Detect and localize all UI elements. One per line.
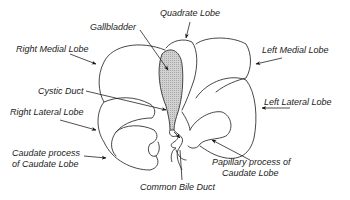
right-medial-lobe-arrow: [70, 54, 96, 64]
left-medial-lobe-arrow: [256, 58, 282, 64]
quadrate-lobe-arrow: [186, 22, 190, 38]
left-lateral-lobe-outline: [196, 78, 256, 159]
right-lateral-lobe-arrow: [60, 120, 96, 130]
caudate-process-outline: [116, 126, 159, 157]
label-papillary-process-line1: Papillary process of: [212, 157, 291, 167]
label-caudate-process-line1: Caudate process: [12, 148, 80, 158]
label-gallbladder: Gallbladder: [90, 22, 136, 32]
common-bile-duct-leader: [180, 150, 182, 180]
liver-diagram: Gallbladder Quadrate Lobe Right Medial L…: [0, 0, 350, 200]
label-right-medial-lobe: Right Medial Lobe: [16, 44, 89, 54]
label-quadrate-lobe: Quadrate Lobe: [160, 8, 220, 18]
right-lateral-lobe-outline: [104, 98, 155, 156]
label-common-bile-duct: Common Bile Duct: [140, 182, 215, 192]
label-left-lateral-lobe: Left Lateral Lobe: [264, 97, 332, 107]
label-right-lateral-lobe: Right Lateral Lobe: [10, 107, 84, 117]
caudate-process-arrow: [84, 156, 106, 158]
label-cystic-duct: Cystic Duct: [38, 86, 84, 96]
label-left-medial-lobe: Left Medial Lobe: [262, 45, 329, 55]
cystic-duct-arrow: [86, 91, 166, 110]
left-medial-lobe-outline: [196, 38, 251, 92]
label-caudate-process-line2: of Caudate Lobe: [12, 159, 79, 169]
papillary-process-outline: [188, 112, 231, 148]
label-papillary-process-line2: Caudate Lobe: [222, 168, 279, 178]
